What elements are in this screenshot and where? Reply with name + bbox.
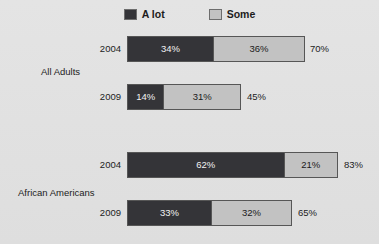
group-label-all-adults: All Adults <box>41 67 80 77</box>
bar-row: 2004 34% 36% 70% <box>0 36 379 62</box>
bar-segment-some: 32% <box>211 201 291 225</box>
stacked-bar: 62% 21% <box>127 152 338 178</box>
bar-row: 2009 33% 32% 65% <box>0 200 379 226</box>
segment-value-a-lot: 33% <box>160 208 179 218</box>
bar-segment-a-lot: 34% <box>128 37 213 61</box>
segment-value-some: 36% <box>250 44 269 54</box>
bar-segment-a-lot: 33% <box>128 201 211 225</box>
square-swatch-icon <box>124 9 137 20</box>
year-label: 2009 <box>88 208 121 218</box>
stacked-bar: 34% 36% <box>127 36 305 62</box>
segment-value-some: 31% <box>193 92 212 102</box>
segment-value-a-lot: 62% <box>196 160 215 170</box>
bar-row: 2004 62% 21% 83% <box>0 152 379 178</box>
bar-row: 2009 14% 31% 45% <box>0 84 379 110</box>
bar-segment-a-lot: 62% <box>128 153 284 177</box>
year-label: 2004 <box>88 44 121 54</box>
stacked-bar: 14% 31% <box>127 84 241 110</box>
chart-legend: A lot Some <box>0 9 379 20</box>
segment-value-some: 32% <box>242 208 261 218</box>
year-label: 2004 <box>88 160 121 170</box>
group-label-african-americans: African Americans <box>18 188 95 198</box>
bar-segment-some: 21% <box>284 153 338 177</box>
total-label: 83% <box>344 160 363 170</box>
total-label: 45% <box>247 92 266 102</box>
total-label: 70% <box>310 44 329 54</box>
bar-segment-a-lot: 14% <box>128 85 163 109</box>
stacked-bar: 33% 32% <box>127 200 292 226</box>
total-label: 65% <box>298 208 317 218</box>
segment-value-some: 21% <box>301 160 320 170</box>
segment-value-a-lot: 14% <box>136 92 155 102</box>
legend-item-some: Some <box>209 9 256 20</box>
bar-segment-some: 31% <box>163 85 240 109</box>
square-swatch-icon <box>209 9 222 20</box>
bar-segment-some: 36% <box>213 37 304 61</box>
segment-value-a-lot: 34% <box>161 44 180 54</box>
legend-item-a-lot: A lot <box>124 9 165 20</box>
stacked-bar-chart: A lot Some All Adults African Americans … <box>0 0 379 244</box>
legend-label-some: Some <box>227 9 256 20</box>
legend-label-a-lot: A lot <box>142 9 165 20</box>
year-label: 2009 <box>88 92 121 102</box>
